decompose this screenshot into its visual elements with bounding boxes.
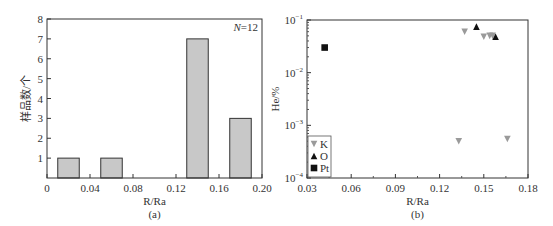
x-tick-label: 0 bbox=[44, 182, 50, 194]
y-tick-label: 7 bbox=[38, 33, 44, 45]
y-tick-label: 3 bbox=[38, 112, 44, 124]
legend-label-pt: Pt bbox=[320, 162, 329, 174]
legend-label-o: O bbox=[320, 150, 328, 162]
y-axis-label: He/% bbox=[269, 86, 281, 111]
x-tick-label: 0.15 bbox=[474, 182, 494, 194]
histogram-bar bbox=[101, 158, 123, 178]
legend: KOPt bbox=[308, 136, 331, 177]
figure: 1234567800.040.080.120.160.20R/Ra(a)样品数/… bbox=[0, 0, 553, 226]
x-tick-label: 0.08 bbox=[123, 182, 143, 194]
legend-square-icon bbox=[311, 165, 318, 172]
x-axis-label: R/Ra bbox=[406, 195, 429, 207]
scatter-panel-b: 10−410−310−210−10.030.060.090.120.150.18… bbox=[269, 13, 538, 221]
histogram-panel-a: 1234567800.040.080.120.160.20R/Ra(a)样品数/… bbox=[19, 13, 272, 221]
y-tick-label: 10−1 bbox=[285, 13, 304, 26]
data-point-triangle-down-icon bbox=[481, 33, 488, 40]
x-tick-label: 0.12 bbox=[430, 182, 449, 194]
data-point-triangle-down-icon bbox=[461, 28, 468, 35]
data-point-triangle-down-icon bbox=[455, 138, 462, 145]
histogram-bar bbox=[187, 39, 209, 178]
y-tick-label: 1 bbox=[38, 152, 44, 164]
panel-label-a: (a) bbox=[148, 208, 161, 221]
y-tick-label: 2 bbox=[38, 132, 44, 144]
y-tick-label: 5 bbox=[38, 73, 44, 85]
data-point-triangle-down-icon bbox=[504, 136, 511, 143]
y-tick-label: 4 bbox=[38, 93, 44, 105]
histogram-bar bbox=[58, 158, 80, 178]
data-point-triangle-up-icon bbox=[473, 23, 480, 30]
legend-label-k: K bbox=[320, 138, 328, 150]
y-tick-label: 10−2 bbox=[285, 66, 304, 79]
x-tick-label: 0.18 bbox=[518, 182, 538, 194]
x-tick-label: 0.04 bbox=[80, 182, 100, 194]
y-tick-label: 10−3 bbox=[285, 118, 304, 131]
y-tick-label: 6 bbox=[38, 53, 44, 65]
histogram-bar bbox=[230, 118, 252, 178]
series-o bbox=[473, 23, 499, 40]
x-axis-label: R/Ra bbox=[143, 195, 166, 207]
x-tick-label: 0.12 bbox=[166, 182, 185, 194]
x-tick-label: 0.20 bbox=[252, 182, 272, 194]
y-tick-label: 8 bbox=[38, 13, 44, 25]
x-tick-label: 0.06 bbox=[342, 182, 362, 194]
series-k bbox=[455, 28, 510, 144]
x-tick-label: 0.03 bbox=[297, 182, 317, 194]
y-axis-label: 样品数/个 bbox=[19, 75, 32, 122]
panel-label-b: (b) bbox=[411, 208, 424, 221]
plot-frame bbox=[307, 20, 528, 178]
x-tick-label: 0.09 bbox=[386, 182, 406, 194]
data-point-square-icon bbox=[321, 44, 328, 51]
series-pt bbox=[321, 44, 328, 51]
sample-count-annotation: N=12 bbox=[232, 21, 258, 33]
x-tick-label: 0.16 bbox=[209, 182, 229, 194]
